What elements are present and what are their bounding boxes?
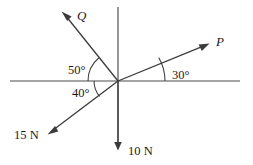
vector-p-group <box>118 44 210 82</box>
angle-30-label: 30° <box>172 68 190 82</box>
vector-p-arrowhead <box>199 44 210 51</box>
force-diagram-canvas: 50° 40° 30° P Q 15 N 10 N <box>0 0 253 165</box>
vector-10n-label: 10 N <box>128 144 153 158</box>
vector-p-label: P <box>215 34 224 49</box>
angle-40-arc <box>94 81 100 96</box>
angle-50-label: 50° <box>68 63 86 77</box>
labels-group: 50° 40° 30° P Q 15 N 10 N <box>14 8 224 158</box>
vector-15n-label: 15 N <box>14 128 39 142</box>
angle-30-arc <box>159 58 165 82</box>
vector-q-arrowhead <box>62 12 72 22</box>
vector-10n-group <box>114 81 122 151</box>
force-diagram-figure: 50° 40° 30° P Q 15 N 10 N <box>0 0 253 165</box>
angle-40-label: 40° <box>72 86 90 100</box>
vector-q-label: Q <box>77 8 87 23</box>
angle-50-arc <box>88 58 99 81</box>
vector-10n-arrowhead <box>114 142 122 151</box>
